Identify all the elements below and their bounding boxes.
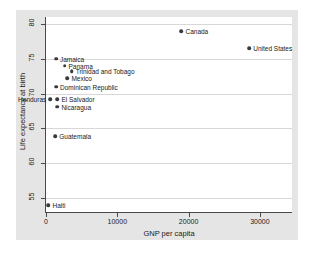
y-tick-label: 80 xyxy=(28,12,35,32)
data-point-marker xyxy=(47,203,51,207)
gridline-y xyxy=(46,128,292,129)
y-tick-label: 55 xyxy=(28,187,35,207)
x-tick-mark xyxy=(46,213,47,217)
data-point-marker xyxy=(48,97,52,101)
x-tick-label: 20000 xyxy=(169,218,209,225)
data-point-label: Mexico xyxy=(71,75,92,82)
data-point-label: Canada xyxy=(185,27,208,34)
data-point-label: Guatemala xyxy=(59,133,91,140)
x-axis-title: GNP per capita xyxy=(46,229,292,238)
y-tick-mark xyxy=(41,94,45,95)
data-point-label: Dominican Republic xyxy=(60,83,118,90)
y-tick-label: 60 xyxy=(28,152,35,172)
data-point-marker xyxy=(53,134,57,138)
data-point-label: El Salvador xyxy=(61,96,94,103)
x-tick-mark xyxy=(260,213,261,217)
y-tick-label: 65 xyxy=(28,117,35,137)
y-axis-title: Life expectancy at birth xyxy=(18,52,27,172)
gridline-y xyxy=(46,94,292,95)
gridline-y xyxy=(46,163,292,164)
data-point-label: United States xyxy=(253,45,292,52)
y-tick-mark xyxy=(41,198,45,199)
data-point-marker xyxy=(56,97,60,101)
y-axis-line xyxy=(45,17,46,212)
y-tick-mark xyxy=(41,24,45,25)
data-point-marker xyxy=(56,105,60,109)
x-tick-label: 30000 xyxy=(240,218,280,225)
y-tick-mark xyxy=(41,128,45,129)
data-point-marker xyxy=(54,85,58,89)
x-tick-mark xyxy=(189,213,190,217)
x-axis-line xyxy=(45,212,292,213)
x-tick-label: 10000 xyxy=(97,218,137,225)
y-tick-mark xyxy=(41,163,45,164)
x-tick-label: 0 xyxy=(26,218,66,225)
data-point-marker xyxy=(66,76,70,80)
data-point-label: Nicaragua xyxy=(61,103,91,110)
gridline-y xyxy=(46,198,292,199)
y-tick-mark xyxy=(41,59,45,60)
x-tick-mark xyxy=(117,213,118,217)
data-point-marker xyxy=(247,47,251,51)
data-point-marker xyxy=(54,57,58,61)
data-point-label: Jamaica xyxy=(60,55,84,62)
scatter-plot-screenshot: 556065707580 0100002000030000 CanadaUnit… xyxy=(0,0,314,253)
data-point-marker xyxy=(70,70,74,74)
data-point-marker xyxy=(180,29,184,33)
data-point-marker xyxy=(63,64,67,68)
gridline-y xyxy=(46,24,292,25)
data-point-label: Haiti xyxy=(52,202,65,209)
data-point-label: Trinidad and Tobago xyxy=(76,68,135,75)
y-tick-label: 75 xyxy=(28,47,35,67)
